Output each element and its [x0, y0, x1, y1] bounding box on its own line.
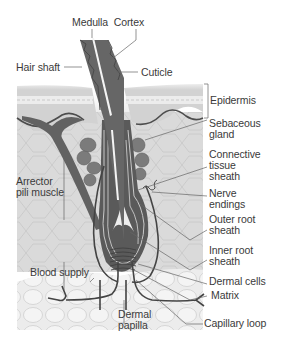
label-matrix: Matrix — [211, 290, 239, 301]
label-arrector-pili-muscle: Arrector pili muscle — [16, 176, 64, 198]
label-blood-supply: Blood supply — [30, 267, 89, 278]
label-cuticle: Cuticle — [141, 67, 172, 78]
label-nerve-endings: Nerve endings — [209, 188, 245, 210]
label-sebaceous-gland: Sebaceous gland — [209, 118, 261, 140]
label-outer-root-sheath: Outer root sheath — [209, 214, 255, 236]
label-dermal-cells: Dermal cells — [209, 276, 266, 287]
label-capillary-loop: Capillary loop — [204, 318, 266, 329]
label-medulla-cortex: Medulla Cortex — [72, 17, 144, 28]
epidermis-bracket — [204, 84, 208, 118]
label-hair-shaft: Hair shaft — [16, 62, 60, 73]
label-connective-tissue-sheath: Connective tissue sheath — [209, 149, 261, 182]
label-epidermis: Epidermis — [210, 95, 256, 106]
label-inner-root-sheath: Inner root sheath — [209, 245, 253, 267]
label-dermal-papilla: Dermal papilla — [118, 309, 151, 331]
